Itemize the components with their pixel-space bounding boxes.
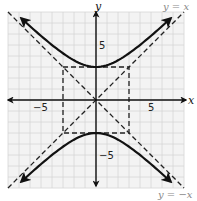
y-tick-neg5: −5 [99,150,114,161]
asymptote-label-y-eq-neg-x: y = −x [157,189,193,200]
y-tick-pos5: 5 [99,40,105,51]
x-tick-pos5: 5 [148,102,154,113]
x-tick-neg5: −5 [33,102,48,113]
asymptote-label-y-eq-x: y = x [162,1,189,12]
hyperbola-graph: y x −5 5 5 −5 y = x y = −x [0,0,197,201]
y-axis-label: y [94,0,102,13]
x-axis-label: x [188,94,195,107]
